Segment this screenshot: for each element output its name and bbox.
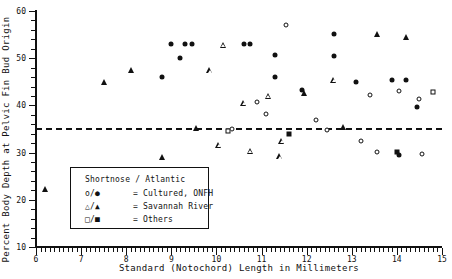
x-tick-minor xyxy=(45,248,46,252)
x-tick-minor xyxy=(207,248,208,252)
x-tick-minor xyxy=(401,248,402,252)
x-tick-minor xyxy=(122,248,123,252)
y-tick-label: 60 xyxy=(0,7,26,16)
y-tick-major xyxy=(29,247,36,248)
legend-symbols-cultured: o/● xyxy=(85,189,125,198)
data-point xyxy=(403,34,409,40)
x-tick-minor xyxy=(298,248,299,252)
y-tick-label: 10 xyxy=(0,243,26,252)
x-tick-label: 11 xyxy=(250,255,274,264)
data-point xyxy=(301,90,307,96)
x-tick-minor xyxy=(257,248,258,252)
x-tick-label: 8 xyxy=(114,255,138,264)
x-tick-minor xyxy=(131,248,132,252)
x-tick-minor xyxy=(185,248,186,252)
x-tick-label: 9 xyxy=(159,255,183,264)
y-tick-label: 40 xyxy=(0,101,26,110)
x-tick-minor xyxy=(406,248,407,252)
x-tick-minor xyxy=(293,248,294,252)
data-point xyxy=(354,79,359,84)
x-tick-minor xyxy=(113,248,114,252)
data-point xyxy=(277,153,283,159)
x-tick-minor xyxy=(311,248,312,252)
x-tick-minor xyxy=(437,248,438,252)
x-tick-major xyxy=(216,248,217,255)
x-tick-minor xyxy=(325,248,326,252)
x-tick-minor xyxy=(86,248,87,252)
x-tick-minor xyxy=(95,248,96,252)
x-tick-minor xyxy=(108,248,109,252)
data-point xyxy=(273,53,278,58)
x-tick-minor xyxy=(374,248,375,252)
data-point xyxy=(248,41,253,46)
x-tick-major xyxy=(126,248,127,255)
x-tick-major xyxy=(36,248,37,255)
data-point xyxy=(430,90,435,95)
x-tick-minor xyxy=(54,248,55,252)
legend-title: Shortnose / Atlantic xyxy=(85,175,185,184)
data-point xyxy=(182,42,187,47)
data-point xyxy=(415,105,420,110)
x-tick-minor xyxy=(266,248,267,252)
x-tick-minor xyxy=(59,248,60,252)
legend-symbols-savannah: △/▲ xyxy=(85,202,125,211)
data-point xyxy=(101,79,107,85)
x-tick-minor xyxy=(383,248,384,252)
x-tick-major xyxy=(81,248,82,255)
x-tick-minor xyxy=(99,248,100,252)
x-tick-major xyxy=(442,248,443,255)
x-tick-minor xyxy=(140,248,141,252)
legend-symbols-others: □/■ xyxy=(85,215,125,224)
data-point xyxy=(160,75,165,80)
x-tick-minor xyxy=(410,248,411,252)
x-tick-minor xyxy=(104,248,105,252)
x-tick-minor xyxy=(50,248,51,252)
x-tick-minor xyxy=(153,248,154,252)
x-tick-minor xyxy=(212,248,213,252)
x-tick-minor xyxy=(275,248,276,252)
data-point xyxy=(255,100,260,105)
data-point xyxy=(207,67,213,73)
x-tick-minor xyxy=(234,248,235,252)
x-tick-minor xyxy=(289,248,290,252)
x-tick-minor xyxy=(271,248,272,252)
x-tick-minor xyxy=(329,248,330,252)
x-tick-minor xyxy=(392,248,393,252)
data-point xyxy=(367,93,372,98)
x-tick-minor xyxy=(320,248,321,252)
legend-box: Shortnose / Atlantic o/● = Cultured, ONF… xyxy=(70,167,209,229)
x-tick-minor xyxy=(180,248,181,252)
data-point xyxy=(390,77,395,82)
x-tick-minor xyxy=(162,248,163,252)
data-point xyxy=(42,186,48,192)
x-tick-minor xyxy=(347,248,348,252)
y-tick-major xyxy=(29,105,36,106)
x-tick-label: 10 xyxy=(204,255,228,264)
x-tick-minor xyxy=(198,248,199,252)
data-point xyxy=(178,56,183,61)
data-point xyxy=(128,67,134,73)
data-point xyxy=(220,42,226,48)
y-tick-label: 30 xyxy=(0,149,26,158)
data-point xyxy=(159,154,165,160)
x-tick-minor xyxy=(356,248,357,252)
data-point xyxy=(313,118,318,123)
data-point xyxy=(358,139,363,144)
y-tick-label: 50 xyxy=(0,54,26,63)
data-point xyxy=(284,23,289,28)
x-tick-minor xyxy=(230,248,231,252)
x-tick-minor xyxy=(365,248,366,252)
x-tick-minor xyxy=(338,248,339,252)
x-tick-minor xyxy=(424,248,425,252)
x-tick-minor xyxy=(158,248,159,252)
x-tick-label: 14 xyxy=(385,255,409,264)
data-point xyxy=(189,42,194,47)
data-point xyxy=(193,125,199,131)
data-point xyxy=(273,75,278,80)
x-tick-minor xyxy=(221,248,222,252)
data-point xyxy=(241,41,246,46)
x-tick-minor xyxy=(334,248,335,252)
y-tick-major xyxy=(29,153,36,154)
x-tick-minor xyxy=(63,248,64,252)
data-point xyxy=(324,127,329,132)
